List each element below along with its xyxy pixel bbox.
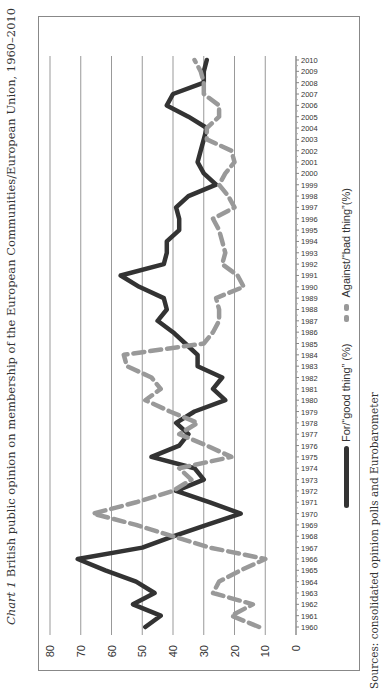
x-tick-label: 1968: [301, 532, 318, 541]
x-tick-label: 1991: [301, 271, 318, 280]
x-tick-label: 1960: [301, 623, 318, 632]
x-tick-label: 1973: [301, 476, 318, 485]
y-tick-label: 30: [198, 645, 210, 657]
y-tick-label: 10: [259, 645, 271, 657]
sources-note: Sources: consolidated opinion polls and …: [368, 392, 380, 689]
x-tick-label: 1969: [301, 521, 318, 530]
y-tick-label: 20: [229, 645, 241, 657]
x-tick-label: 2008: [301, 79, 318, 88]
x-tick-label: 1976: [301, 442, 318, 451]
x-tick-label: 1962: [301, 600, 318, 609]
x-tick-label: 1988: [301, 305, 318, 314]
x-tick-label: 1985: [301, 340, 318, 349]
x-tick-label: 1961: [301, 612, 318, 621]
x-tick-label: 1965: [301, 566, 318, 575]
x-tick-label: 1998: [301, 192, 318, 201]
x-tick-label: 2007: [301, 90, 318, 99]
x-tick-label: 2003: [301, 135, 318, 144]
x-tick-label: 1990: [301, 283, 318, 292]
y-tick-label: 50: [136, 645, 148, 657]
x-tick-label: 1996: [301, 215, 318, 224]
x-tick-label: 1984: [301, 351, 318, 360]
legend-swatch-dashed-icon: [344, 304, 349, 322]
x-tick-label: 2009: [301, 67, 318, 76]
x-tick-label: 1983: [301, 362, 318, 371]
x-tick-label: 1966: [301, 555, 318, 564]
x-tick-label: 1992: [301, 260, 318, 269]
x-tick-label: 1989: [301, 294, 318, 303]
x-tick-label: 1967: [301, 544, 318, 553]
x-tick-label: 2004: [301, 124, 318, 133]
y-tick-label: 40: [167, 645, 179, 657]
x-tick-label: 1978: [301, 419, 318, 428]
x-tick-label: 1970: [301, 510, 318, 519]
series-against-line: [93, 60, 265, 627]
x-tick-label: 1974: [301, 464, 318, 473]
line-chart: 0102030405060708019601961196219631964196…: [0, 0, 387, 693]
legend-item-for: For/“good thing” (%): [340, 344, 352, 508]
y-tick-label: 0: [290, 645, 302, 651]
x-tick-label: 2005: [301, 113, 318, 122]
x-tick-label: 1979: [301, 408, 318, 417]
legend-swatch-solid-icon: [344, 446, 349, 508]
legend-label-for: For/“good thing” (%): [340, 344, 352, 442]
x-tick-label: 1986: [301, 328, 318, 337]
x-tick-label: 1997: [301, 203, 318, 212]
x-tick-label: 1981: [301, 385, 318, 394]
x-tick-label: 1999: [301, 181, 318, 190]
x-tick-label: 1982: [301, 374, 318, 383]
y-tick-label: 70: [75, 645, 87, 657]
x-tick-label: 1977: [301, 430, 318, 439]
x-tick-label: 2010: [301, 56, 318, 65]
x-tick-label: 2002: [301, 147, 318, 156]
x-tick-label: 1972: [301, 487, 318, 496]
chart-page: Chart 1 British public opinion on member…: [0, 0, 387, 693]
x-tick-label: 1964: [301, 578, 318, 587]
legend-label-against: Against/“bad thing”(%): [340, 188, 352, 297]
x-tick-label: 2001: [301, 158, 318, 167]
y-tick-label: 60: [106, 645, 118, 657]
x-tick-label: 1971: [301, 498, 318, 507]
x-tick-label: 1963: [301, 589, 318, 598]
x-tick-label: 1975: [301, 453, 318, 462]
x-tick-label: 1993: [301, 249, 318, 258]
x-tick-label: 1987: [301, 317, 318, 326]
legend-item-against: Against/“bad thing”(%): [340, 188, 352, 321]
y-tick-label: 80: [44, 645, 56, 657]
x-tick-label: 2000: [301, 169, 318, 178]
x-tick-label: 1980: [301, 396, 318, 405]
x-tick-label: 2006: [301, 101, 318, 110]
x-tick-label: 1995: [301, 226, 318, 235]
x-tick-label: 1994: [301, 237, 318, 246]
chart-legend: For/“good thing” (%) Against/“bad thing”…: [338, 166, 354, 508]
